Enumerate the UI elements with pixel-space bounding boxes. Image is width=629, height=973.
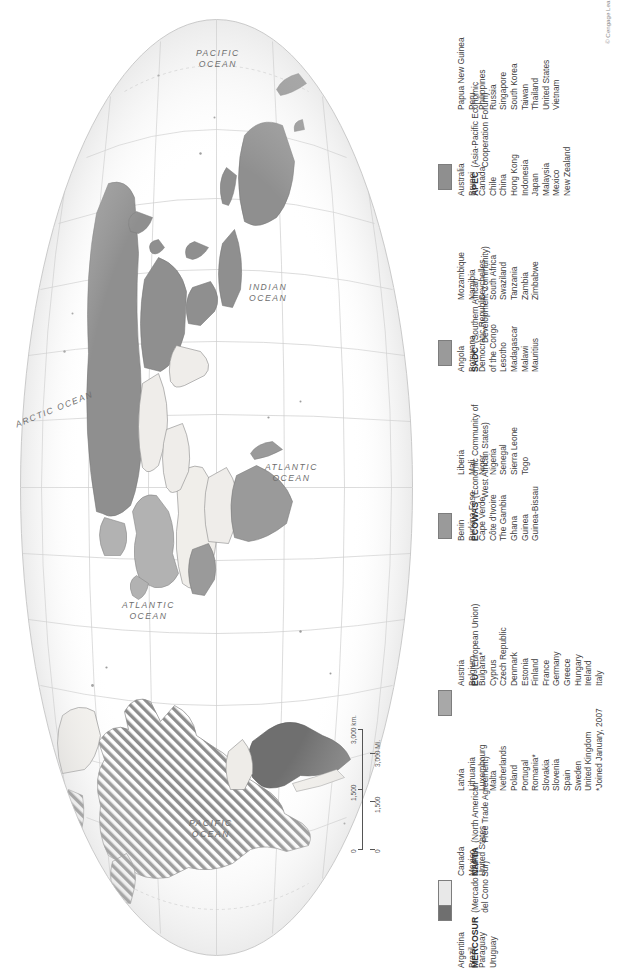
ocean-label-atlantic-north: ATLANTICOCEAN: [265, 462, 318, 484]
scale-bar-km: 0 1,500 3,000 km.: [356, 660, 369, 860]
ocean-label-indian: INDIANOCEAN: [249, 282, 287, 304]
legend-members-eu-col2: Latvia Lithuania Luxembourg Malta Nether…: [456, 708, 604, 791]
ocean-label-atlantic-south: ATLANTICOCEAN: [122, 600, 175, 622]
legend-swatch-ecowas: [438, 513, 452, 539]
legend-footnote-eu: *Joined January, 2007: [594, 708, 605, 791]
copyright-notice: © Cengage Learning: [604, 0, 611, 44]
legend-members-eu-col1: Austria Belgium Bulgaria* Cyprus Czech R…: [456, 627, 604, 686]
legend-members-nafta: Canada Mexico United States: [456, 826, 488, 876]
legend-members-apec-col1: Australia Brunei Canada Chile China Hong…: [456, 147, 573, 196]
legend-members-sadc-col1: Angola Botswana Democratic Republic of t…: [456, 295, 541, 372]
legend-swatch-sadc: [438, 340, 452, 366]
ocean-label-pacific-north: PACIFICOCEAN: [196, 48, 240, 70]
legend-members-ecowas-col1: Benin Burkina Faso Cape Verde Côte d'Ivo…: [456, 486, 541, 541]
legend: MERCOSUR (Mercado Comun del Cono Sur) Ar…: [432, 0, 629, 973]
world-trade-blocs-map-page: PACIFICOCEAN INDIANOCEAN ARCTIC OCEAN AT…: [0, 0, 629, 973]
scale-bar-mi: 0 1,500 3,000 Mi.: [370, 660, 383, 860]
legend-members-sadc-col2: Mozambique Namibia Seychelles South Afri…: [456, 252, 541, 300]
legend-swatch-apec: [438, 164, 452, 190]
legend-members-mercosur: Argentina Brazil Paraguay Uruguay: [456, 932, 498, 968]
ocean-label-pacific-south: PACIFICOCEAN: [189, 818, 233, 840]
legend-members-apec-col2: Papua New Guinea Peru Philippines Russia…: [456, 37, 562, 110]
legend-swatch-eu: [438, 690, 452, 716]
legend-swatch-nafta: [438, 880, 452, 906]
scale-bar: 0 1,500 3,000 km. 0 1,500 3,000 Mi.: [356, 660, 382, 860]
legend-members-ecowas-col2: Liberia Mali Niger Nigeria Senegal Sierr…: [456, 427, 530, 475]
